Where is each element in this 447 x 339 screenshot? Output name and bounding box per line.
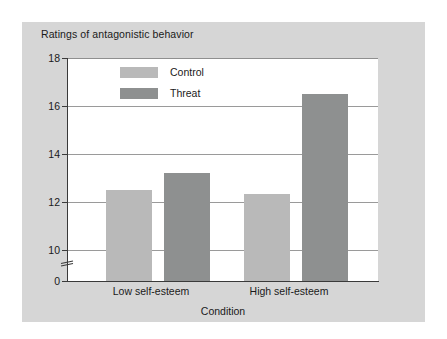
y-tick-18 bbox=[62, 58, 68, 59]
y-tick-label-18: 18 bbox=[38, 52, 60, 64]
y-tick-10 bbox=[62, 250, 68, 251]
figure-container: Ratings of antagonistic behavior 18 16 1… bbox=[0, 0, 447, 339]
x-axis-line bbox=[67, 281, 379, 282]
gridline-18 bbox=[68, 58, 378, 59]
bar-low-self-esteem-threat[interactable] bbox=[164, 173, 210, 281]
legend-item-threat[interactable]: Threat bbox=[120, 85, 204, 101]
chart-title: Ratings of antagonistic behavior bbox=[41, 28, 194, 40]
y-tick-label-0: 0 bbox=[38, 275, 60, 287]
legend-swatch-control-icon bbox=[120, 67, 158, 78]
y-axis-line bbox=[67, 58, 68, 282]
legend-swatch-threat-icon bbox=[120, 88, 158, 99]
bar-high-self-esteem-threat[interactable] bbox=[302, 94, 348, 281]
x-tick-label-high-self-esteem: High self-esteem bbox=[250, 285, 329, 297]
x-tick-label-low-self-esteem: Low self-esteem bbox=[113, 285, 189, 297]
legend-label-threat: Threat bbox=[170, 87, 200, 99]
y-tick-label-12: 12 bbox=[38, 196, 60, 208]
y-tick-0 bbox=[62, 281, 68, 282]
axis-break-icon bbox=[60, 256, 74, 270]
y-tick-label-14: 14 bbox=[38, 148, 60, 160]
bar-low-self-esteem-control[interactable] bbox=[106, 190, 152, 281]
legend-item-control[interactable]: Control bbox=[120, 64, 204, 80]
y-tick-12 bbox=[62, 202, 68, 203]
y-tick-16 bbox=[62, 106, 68, 107]
y-tick-14 bbox=[62, 154, 68, 155]
legend: Control Threat bbox=[120, 64, 204, 106]
y-tick-label-10: 10 bbox=[38, 244, 60, 256]
y-tick-label-16: 16 bbox=[38, 100, 60, 112]
plot-area bbox=[68, 58, 378, 281]
legend-label-control: Control bbox=[170, 66, 204, 78]
x-axis-title: Condition bbox=[201, 305, 245, 317]
bar-high-self-esteem-control[interactable] bbox=[244, 194, 290, 281]
